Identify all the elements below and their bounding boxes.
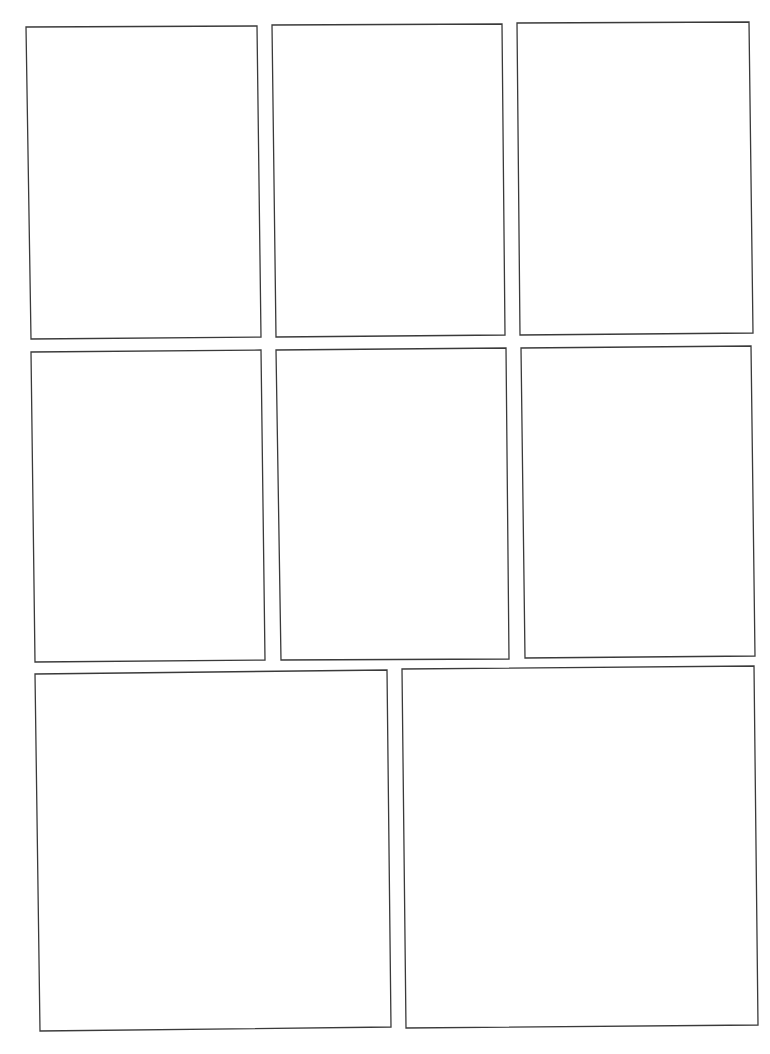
panel-3 [517, 22, 753, 335]
panel-7 [35, 670, 391, 1031]
panel-5 [276, 348, 509, 660]
panel-4 [31, 350, 265, 662]
panel-8 [402, 666, 758, 1028]
panel-1 [26, 26, 261, 339]
panel-6 [521, 346, 755, 658]
comic-page [0, 0, 770, 1054]
panel-2 [272, 24, 505, 337]
